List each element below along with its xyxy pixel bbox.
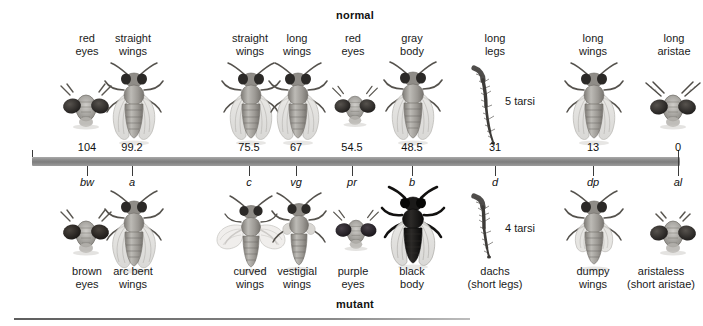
position-b: 48.5 <box>401 141 422 153</box>
gene-pr: pr <box>347 176 357 188</box>
fly-long-wings-icon <box>268 62 328 146</box>
fly-leg-long-icon <box>466 64 504 146</box>
tick-c <box>249 166 250 176</box>
tick-al <box>678 166 679 176</box>
mutant-label-a: arc bent wings <box>100 265 166 290</box>
normal-label-b: gray body <box>383 32 441 57</box>
fly-leg-short-icon <box>466 192 504 262</box>
fly-dumpy-wings-icon <box>564 190 624 272</box>
tick-bw <box>87 166 88 176</box>
mutant-label-d: dachs (short legs) <box>452 265 538 290</box>
position-bw: 104 <box>78 141 96 153</box>
mutant-label-b: black body <box>383 265 441 290</box>
tick-dp <box>593 166 594 176</box>
normal-label-a: straight wings <box>102 32 164 57</box>
position-d: 31 <box>489 141 501 153</box>
gene-bw: bw <box>80 176 94 188</box>
normal-label-vg: long wings <box>268 32 326 57</box>
fly-arc-bent-wings-icon <box>104 190 164 274</box>
gene-al: al <box>674 176 683 188</box>
tarsi-count-mutant: 4 tarsi <box>505 222 535 234</box>
fly-head-short-aristae-icon <box>645 208 701 256</box>
fly-head-red-eyes-icon-2 <box>330 84 380 128</box>
gene-c: c <box>246 176 252 188</box>
tick-d <box>495 166 496 176</box>
mutant-label-vg: vestigial wings <box>266 265 328 290</box>
fly-straight-wings-icon <box>104 62 164 146</box>
position-a: 99.2 <box>121 141 142 153</box>
position-dp: 13 <box>587 141 599 153</box>
genetic-map-figure: normal mutant red eyes straight wings st… <box>0 0 703 326</box>
gene-vg: vg <box>290 176 302 188</box>
normal-label-al: long aristae <box>645 32 703 57</box>
normal-label-pr: red eyes <box>324 32 382 57</box>
axis-left-cap <box>32 150 33 157</box>
gene-a: a <box>129 176 135 188</box>
position-pr: 54.5 <box>341 141 362 153</box>
fly-gray-body-icon <box>383 60 443 146</box>
normal-label-d: long legs <box>466 32 524 57</box>
fly-black-body-icon <box>380 186 446 270</box>
tick-b <box>412 166 413 176</box>
tick-a <box>132 166 133 176</box>
mutant-header: mutant <box>305 298 405 310</box>
fly-long-wings-icon-2 <box>564 62 624 146</box>
mutant-label-pr: purple eyes <box>324 265 382 290</box>
fly-head-long-aristae-icon <box>645 82 701 130</box>
position-c: 75.5 <box>238 141 259 153</box>
mutant-label-al: aristaless (short aristae) <box>619 265 703 290</box>
position-vg: 67 <box>290 141 302 153</box>
mutant-label-dp: dumpy wings <box>564 265 622 290</box>
fly-head-purple-eyes-icon <box>331 208 381 252</box>
gene-d: d <box>492 176 498 188</box>
position-al: 0 <box>675 141 681 153</box>
linkage-map-axis <box>32 157 680 166</box>
tarsi-count-normal: 5 tarsi <box>505 95 535 107</box>
tick-pr <box>352 166 353 176</box>
bottom-divider-rule <box>14 318 470 320</box>
fly-vestigial-wings-icon <box>270 192 328 272</box>
normal-header: normal <box>305 9 405 21</box>
normal-label-dp: long wings <box>564 32 622 57</box>
gene-dp: dp <box>587 176 599 188</box>
tick-vg <box>296 166 297 176</box>
